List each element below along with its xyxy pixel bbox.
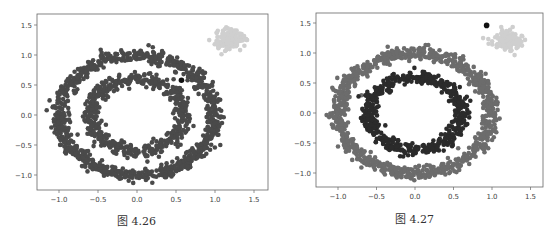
y-tick-label: −1.0 [294, 170, 311, 178]
data-points [44, 25, 249, 185]
series-outer-ring [44, 43, 226, 185]
x-tick-label: −0.5 [368, 193, 385, 201]
y-tick-label: 0.5 [21, 82, 32, 90]
x-tick-label: −0.5 [90, 196, 107, 204]
x-tick-label: 1.5 [525, 193, 536, 201]
x-tick-label: 0.0 [409, 193, 420, 201]
y-tick-label: 1.0 [21, 52, 32, 60]
y-tick-label: 1.5 [21, 22, 32, 30]
series-noise-point [179, 77, 185, 83]
y-tick-label: −1.0 [15, 172, 32, 180]
figure-caption-4-27: 图 4.27 [395, 210, 434, 226]
x-tick-label: 0.0 [131, 196, 142, 204]
x-tick-label: 1.0 [486, 193, 497, 201]
series-inner-ring [356, 66, 472, 159]
series-blob [481, 25, 527, 58]
series-noise-point [484, 23, 490, 29]
y-tick-label: 1.5 [300, 20, 311, 28]
x-tick-label: 1.0 [209, 196, 220, 204]
scatter-plot-4-26: −1.0−0.50.00.51.01.5−1.0−0.50.00.51.01.5 [15, 14, 268, 204]
y-tick-label: 0.0 [300, 110, 311, 118]
data-points [324, 23, 527, 183]
figure-canvas: −1.0−0.50.00.51.01.5−1.0−0.50.00.51.01.5… [0, 0, 555, 248]
y-tick-label: −0.5 [294, 140, 311, 148]
y-tick-label: −0.5 [15, 142, 32, 150]
series-outer-ring [324, 43, 502, 183]
x-tick-label: 1.5 [248, 196, 259, 204]
scatter-plot-4-27: −1.0−0.50.00.51.01.5−1.0−0.50.00.51.01.5 [294, 13, 543, 201]
figure-caption-4-26: 图 4.26 [117, 212, 156, 228]
x-tick-label: 0.5 [170, 196, 181, 204]
y-tick-label: 0.0 [21, 112, 32, 120]
y-tick-label: 0.5 [300, 80, 311, 88]
x-tick-label: 0.5 [448, 193, 459, 201]
x-tick-label: −1.0 [330, 193, 347, 201]
x-tick-label: −1.0 [51, 196, 68, 204]
y-tick-label: 1.0 [300, 50, 311, 58]
series-blob [207, 25, 250, 57]
series-inner-ring [81, 70, 196, 164]
